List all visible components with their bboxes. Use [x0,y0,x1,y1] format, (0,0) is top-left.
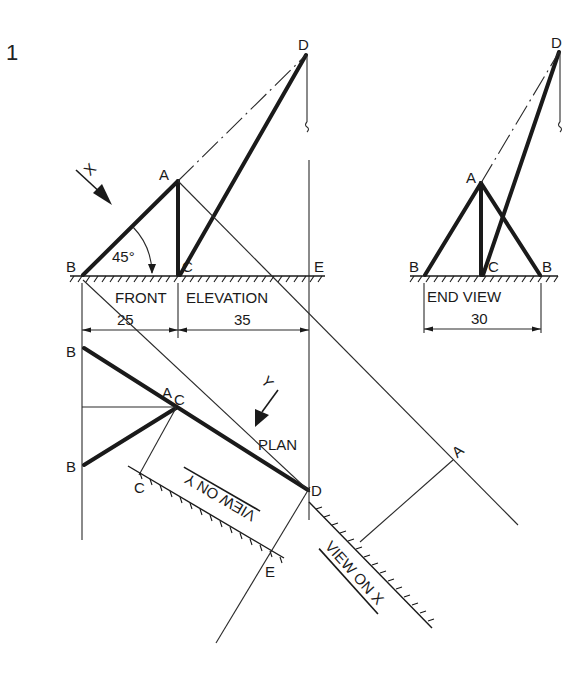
end-view: B A C B D END VIEW 30 [409,34,562,333]
end-member-ba [425,183,481,275]
point-e-label: E [314,258,324,275]
view-y-point-e: E [265,563,275,580]
plan-member-ba [84,408,176,465]
front-title: FRONT [115,289,167,306]
end-point-a: A [466,169,476,186]
end-point-c: C [488,258,499,275]
angle-label: 45° [112,248,135,265]
plan-member-bd [84,348,308,490]
end-view-title: END VIEW [427,288,502,305]
end-dim-label: 30 [471,310,488,327]
end-member-cd [483,52,559,275]
plan-point-a: A [162,384,172,401]
point-d-label: D [298,36,309,53]
view-y-label: Y [258,373,277,392]
orthographic-projection-drawing: 1 45° B A C D E X FRONT [0,0,583,673]
view-x-ground-line [309,502,432,628]
front-elevation: 45° B A C D E X FRONT ELEVATION 25 35 [66,36,325,540]
dim-35-label: 35 [234,311,251,328]
end-point-d: D [551,34,562,51]
view-x-arrow: X [76,160,112,205]
hook-icon [306,122,309,132]
plan-point-b-top: B [66,343,76,360]
figure-number: 1 [6,40,18,65]
plan-point-c: C [174,391,185,408]
projector-b-diagonal [83,280,310,492]
end-point-b-left: B [409,258,419,275]
plan-point-b-bottom: B [66,458,76,475]
view-y-arrow: Y [255,373,278,427]
plan-point-d: D [311,482,322,499]
member-cd [180,55,306,275]
point-a-label: A [159,166,169,183]
point-b-label: B [66,258,76,275]
projector-a-diagonal [178,181,518,525]
ground-hatching [70,276,322,282]
angle-arrowhead [148,264,156,274]
extension-ad [178,55,306,181]
plan-title: PLAN [258,436,297,453]
view-on-y-title: VIEW ON Y [182,471,259,525]
view-y-point-c: C [134,479,145,496]
projector-a-view-x [360,460,453,542]
arrowhead-icon [93,184,112,205]
point-c-label: C [182,258,193,275]
end-hook-icon [559,122,562,132]
end-ground-hatching [410,276,558,282]
elevation-title: ELEVATION [186,289,268,306]
view-on-y: C E VIEW ON Y [128,466,284,580]
end-point-b-right: B [542,258,552,275]
